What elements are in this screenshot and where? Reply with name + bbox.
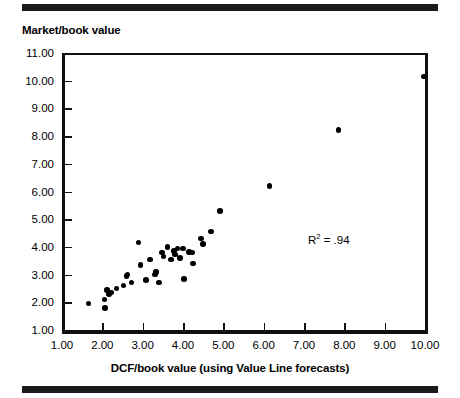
y-tick bbox=[65, 219, 72, 221]
y-tick-label: 8.00 bbox=[32, 130, 54, 142]
scatter-point bbox=[108, 290, 114, 296]
x-tick-label: 2.00 bbox=[91, 339, 113, 351]
bottom-decorative-rule bbox=[22, 386, 438, 393]
x-tick-label: 9.00 bbox=[373, 339, 395, 351]
y-tick bbox=[65, 136, 72, 138]
scatter-point bbox=[168, 257, 174, 263]
scatter-point bbox=[86, 301, 92, 307]
y-tick-label: 11.00 bbox=[26, 47, 54, 59]
y-tick-label: 5.00 bbox=[32, 213, 54, 225]
chart-x-axis-title: DCF/book value (using Value Line forecas… bbox=[0, 362, 460, 374]
x-axis-tick-labels: 1.002.003.004.005.006.007.008.009.0010.0… bbox=[62, 339, 428, 355]
axis-left-spine bbox=[62, 53, 65, 334]
y-tick bbox=[65, 192, 72, 194]
y-tick-label: 6.00 bbox=[32, 186, 54, 198]
axis-right-spine bbox=[425, 53, 428, 334]
scatter-point bbox=[125, 272, 131, 278]
axis-top-spine bbox=[62, 53, 428, 55]
scatter-point bbox=[181, 276, 187, 282]
y-tick-label: 4.00 bbox=[32, 241, 54, 253]
scatter-point bbox=[200, 241, 206, 247]
scatter-point bbox=[138, 262, 144, 268]
x-tick-label: 6.00 bbox=[252, 339, 274, 351]
x-tick-label: 10.00 bbox=[411, 339, 440, 351]
scatter-point bbox=[189, 250, 195, 256]
scatter-point bbox=[267, 183, 273, 189]
top-decorative-rule bbox=[22, 4, 438, 11]
y-tick bbox=[65, 164, 72, 166]
x-tick-label: 7.00 bbox=[293, 339, 315, 351]
scatter-point bbox=[121, 283, 127, 289]
y-tick-label: 9.00 bbox=[32, 102, 54, 114]
scatter-point bbox=[153, 269, 159, 275]
x-tick bbox=[183, 323, 185, 330]
scatter-point bbox=[217, 208, 223, 214]
x-tick bbox=[143, 323, 145, 330]
x-tick bbox=[264, 323, 266, 330]
axis-bottom-spine bbox=[62, 330, 428, 334]
scatter-point bbox=[136, 240, 142, 246]
scatter-point bbox=[102, 305, 108, 311]
y-tick-label: 7.00 bbox=[32, 158, 54, 170]
scatter-point bbox=[336, 127, 342, 133]
y-tick-label: 2.00 bbox=[32, 296, 54, 308]
scatter-point bbox=[114, 286, 120, 292]
y-tick-label: 3.00 bbox=[32, 269, 54, 281]
scatter-point bbox=[161, 254, 167, 260]
scatter-point bbox=[177, 255, 183, 261]
y-axis-tick-labels: 1.002.003.004.005.006.007.008.009.0010.0… bbox=[8, 53, 54, 334]
x-tick bbox=[223, 323, 225, 330]
r-squared-value: = .94 bbox=[321, 233, 350, 245]
x-tick bbox=[344, 323, 346, 330]
chart-y-axis-title: Market/book value bbox=[22, 24, 121, 36]
scatter-point bbox=[180, 246, 186, 252]
y-tick bbox=[65, 81, 72, 83]
y-tick-label: 1.00 bbox=[32, 324, 54, 336]
scatter-point bbox=[129, 280, 135, 286]
scatter-point bbox=[102, 297, 108, 303]
x-tick bbox=[385, 323, 387, 330]
scatter-point bbox=[165, 244, 171, 250]
x-tick-label: 5.00 bbox=[212, 339, 234, 351]
scatter-point bbox=[190, 261, 196, 267]
scatter-point bbox=[156, 280, 162, 286]
x-tick-label: 3.00 bbox=[131, 339, 153, 351]
y-tick bbox=[65, 108, 72, 110]
y-tick bbox=[65, 302, 72, 304]
scatter-point bbox=[143, 277, 149, 283]
x-tick bbox=[102, 323, 104, 330]
x-tick bbox=[304, 323, 306, 330]
x-tick-label: 4.00 bbox=[172, 339, 194, 351]
x-tick-label: 1.00 bbox=[51, 339, 73, 351]
r-squared-annotation: R2 = .94 bbox=[308, 232, 350, 246]
y-tick-label: 10.00 bbox=[25, 75, 54, 87]
scatter-point bbox=[147, 257, 153, 263]
scatter-point bbox=[208, 229, 214, 235]
x-tick-label: 8.00 bbox=[333, 339, 355, 351]
y-tick bbox=[65, 247, 72, 249]
y-tick bbox=[65, 275, 72, 277]
plot-area: R2 = .94 bbox=[62, 53, 428, 334]
